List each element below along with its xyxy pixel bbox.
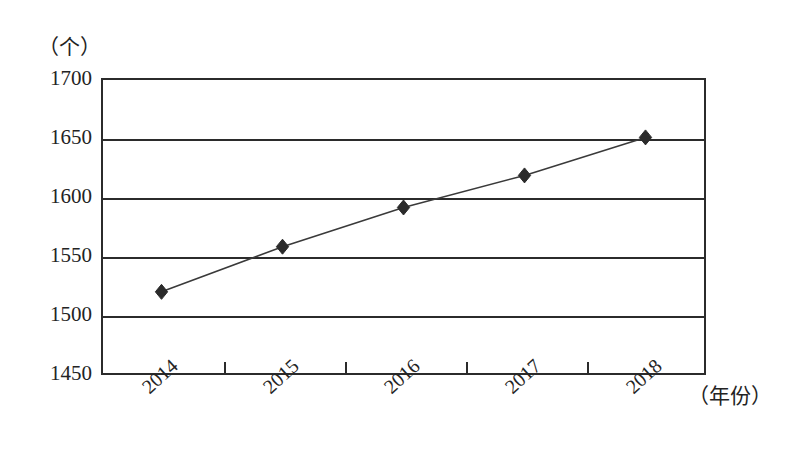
y-tick-label-1600: 1600: [0, 186, 92, 207]
gridline-1650: [103, 139, 704, 141]
y-tick-label-1450: 1450: [0, 363, 92, 384]
y-tick-label-1700: 1700: [0, 68, 92, 89]
x-tick-mark-3: [466, 362, 468, 373]
gridline-1500: [103, 316, 704, 318]
y-axis-unit-label: （个）: [38, 30, 101, 60]
x-axis-unit-label: （年份）: [688, 386, 772, 407]
chart-figure: （个） 1700 1650 1600 1550 1500 1450 2014 2…: [0, 0, 787, 457]
x-tick-mark-4: [587, 362, 589, 373]
y-tick-label-1500: 1500: [0, 304, 92, 325]
y-tick-label-1650: 1650: [0, 127, 92, 148]
plot-area: [101, 78, 706, 375]
y-tick-label-1550: 1550: [0, 245, 92, 266]
x-tick-mark-1: [224, 362, 226, 373]
x-tick-mark-2: [345, 362, 347, 373]
gridline-1550: [103, 257, 704, 259]
gridline-1600: [103, 198, 704, 200]
